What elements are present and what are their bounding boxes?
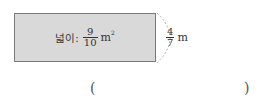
answer-open-paren: ( <box>90 80 95 96</box>
side-fraction: 4 7 <box>166 27 174 48</box>
area-unit-m: m <box>101 31 111 44</box>
answer-blank[interactable] <box>100 82 240 98</box>
area-numerator: 9 <box>86 27 94 37</box>
area-denominator: 10 <box>83 37 98 48</box>
side-numerator: 4 <box>166 27 174 37</box>
area-fraction: 9 10 <box>83 27 98 48</box>
side-length-label: 4 7 m <box>165 27 188 48</box>
area-text: 넓이: <box>55 30 79 45</box>
rectangle-figure: 넓이: 9 10 m2 <box>14 13 156 62</box>
area-label: 넓이: 9 10 m2 <box>55 27 115 48</box>
side-unit: m <box>177 31 187 44</box>
area-unit: m2 <box>101 31 115 44</box>
answer-close-paren: ) <box>244 80 249 96</box>
area-unit-exponent: 2 <box>111 29 115 36</box>
side-denominator: 7 <box>166 37 174 48</box>
